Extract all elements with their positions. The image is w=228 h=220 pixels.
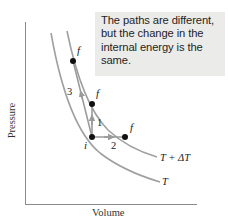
- pv-diagram: f f f i 3 1 2 T + ΔT T The paths are dif…: [0, 0, 228, 220]
- callout-line: The paths are different,: [101, 14, 225, 27]
- point-f-middle: [89, 101, 95, 107]
- path-3-arrow: [81, 93, 83, 99]
- callout-note: The paths are different, but the change …: [95, 12, 225, 76]
- label-path-3: 3: [67, 86, 72, 97]
- x-axis-label: Volume: [92, 207, 124, 218]
- point-i: [89, 134, 95, 140]
- label-isotherm-t: T: [162, 176, 169, 187]
- label-f-right: f: [130, 121, 135, 133]
- point-f-right: [122, 134, 128, 140]
- label-f-top: f: [77, 44, 82, 56]
- label-isotherm-t-plus-dt: T + ΔT: [160, 152, 191, 163]
- label-i: i: [84, 139, 87, 151]
- label-f-middle: f: [96, 87, 101, 99]
- y-axis-label: Pressure: [6, 96, 17, 146]
- point-f-top: [70, 58, 76, 64]
- callout-line: but the change in the: [101, 27, 225, 40]
- callout-line: internal energy is the: [101, 41, 225, 54]
- label-path-2: 2: [111, 140, 116, 151]
- callout-line: same.: [101, 54, 225, 67]
- label-path-1: 1: [97, 117, 102, 128]
